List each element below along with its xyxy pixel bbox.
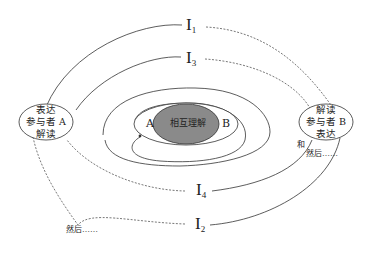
- arc-i1-solid: [46, 25, 182, 107]
- label-i3: I3: [186, 49, 196, 68]
- participant-a-line-2: 参与者 A: [19, 116, 73, 128]
- inner-label-b: B: [222, 118, 230, 129]
- participant-a-line-1: 表达: [19, 104, 73, 116]
- participant-a-line-3: 解读: [19, 128, 73, 140]
- annotation-then-left: 然后……: [66, 226, 98, 234]
- center-label: 相互理解: [170, 119, 206, 128]
- participant-b-label: 解读 参与者 B 表达: [299, 104, 353, 140]
- participant-b-line-1: 解读: [299, 104, 353, 116]
- inner-label-a: A: [146, 118, 154, 129]
- annotation-then-right: 然后……: [306, 150, 338, 158]
- annotation-and: 和: [297, 141, 305, 149]
- arc-i3-solid: [76, 57, 181, 110]
- arc-i2-dashed: [78, 218, 185, 225]
- participant-b-line-2: 参与者 B: [299, 116, 353, 128]
- arc-i3-dashed: [205, 59, 311, 110]
- participant-a-label: 表达 参与者 A 解读: [19, 104, 73, 140]
- participant-b-line-3: 表达: [299, 128, 353, 140]
- arc-a-dashed-down: [33, 137, 78, 225]
- label-i1: I1: [186, 16, 196, 35]
- arc-i1-dashed: [206, 27, 333, 108]
- label-i2: I2: [195, 215, 205, 234]
- label-i4: I4: [196, 181, 206, 200]
